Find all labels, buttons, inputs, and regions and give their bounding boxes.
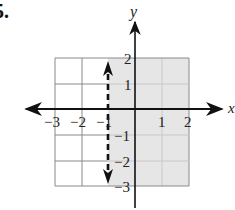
- y-tick-label: 2: [124, 51, 132, 67]
- y-axis-label: y: [128, 3, 138, 21]
- x-tick-label: 2: [184, 114, 192, 130]
- x-tick-label: −3: [44, 114, 60, 130]
- y-tick-label: −2: [114, 154, 130, 170]
- x-tick-label: −1: [96, 114, 112, 130]
- y-tick-label: −1: [114, 128, 130, 144]
- x-axis-label: x: [227, 100, 235, 116]
- coordinate-graph: y x −3 −2 −1 1 2 2 1 −1 −2 −3: [0, 0, 235, 210]
- x-tick-label: −2: [70, 114, 86, 130]
- y-tick-label: −3: [114, 179, 130, 195]
- y-tick-label: 1: [124, 77, 132, 93]
- x-tick-label: 1: [158, 114, 166, 130]
